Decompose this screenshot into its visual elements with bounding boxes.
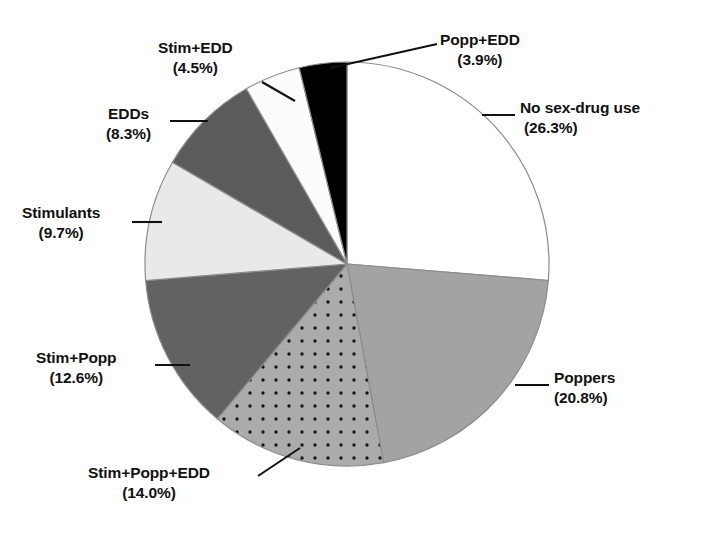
slice-label-no-sex-drug: No sex-drug use (26.3%) xyxy=(520,98,640,139)
slice-label-name: Poppers xyxy=(554,368,615,388)
slice-label-name: Stim+EDD xyxy=(158,38,233,58)
slice-label-stimulants: Stimulants (9.7%) xyxy=(22,203,100,244)
pie-chart-svg xyxy=(0,0,704,543)
slice-label-percent: (9.7%) xyxy=(22,223,100,243)
slice-label-edds: EDDs (8.3%) xyxy=(106,104,151,145)
slice-label-percent: (12.6%) xyxy=(36,368,116,388)
slice-label-name: Stim+Popp xyxy=(36,348,116,368)
slice-label-percent: (20.8%) xyxy=(554,388,615,408)
slice-label-stim-popp: Stim+Popp (12.6%) xyxy=(36,348,116,389)
slice-label-name: EDDs xyxy=(106,104,151,124)
leader-line-popp-edd xyxy=(330,44,437,68)
slice-label-name: Stimulants xyxy=(22,203,100,223)
slice-label-name: No sex-drug use xyxy=(520,98,640,118)
pie-slice-no-sex-drug-use xyxy=(347,62,549,280)
slice-label-stim-popp-edd: Stim+Popp+EDD (14.0%) xyxy=(88,463,210,504)
slice-label-poppers: Poppers (20.8%) xyxy=(554,368,615,409)
slice-label-name: Stim+Popp+EDD xyxy=(88,463,210,483)
slice-label-percent: (4.5%) xyxy=(158,58,233,78)
slice-label-stim-edd: Stim+EDD (4.5%) xyxy=(158,38,233,79)
pie-chart-figure: Popp+EDD (3.9%) No sex-drug use (26.3%) … xyxy=(0,0,704,543)
slice-label-name: Popp+EDD xyxy=(440,30,520,50)
slice-label-percent: (26.3%) xyxy=(520,118,640,138)
slice-label-percent: (3.9%) xyxy=(440,50,520,70)
slice-label-popp-edd: Popp+EDD (3.9%) xyxy=(440,30,520,71)
slice-label-percent: (8.3%) xyxy=(106,124,151,144)
slice-label-percent: (14.0%) xyxy=(88,483,210,503)
pie-slice-group xyxy=(145,62,549,466)
